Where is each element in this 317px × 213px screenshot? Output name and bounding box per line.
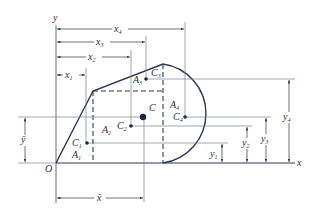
c4-label: C4 — [173, 111, 183, 123]
xbar-label: x̄ — [96, 192, 102, 203]
y1-label: y1 — [209, 148, 217, 160]
c1-point — [85, 141, 89, 145]
a3-label: A3 — [132, 74, 142, 86]
composite-area-diagram: y x O x4 x3 x2 x1 x̄ ȳ y1 y2 y3 y4 — [0, 0, 317, 213]
y-axis-label: y — [52, 12, 58, 23]
origin-label: O — [45, 163, 52, 174]
x-axis-label: x — [296, 157, 302, 168]
centroid-label: C — [149, 102, 156, 113]
c3-point — [144, 77, 148, 81]
c2-point — [129, 124, 133, 128]
c4-point — [183, 115, 187, 119]
centroid-point — [140, 114, 146, 120]
a1-label: A1 — [71, 149, 81, 161]
c1-label: C1 — [72, 137, 82, 149]
c3-label: C3 — [151, 67, 161, 79]
a4-label: A4 — [169, 99, 179, 111]
ybar-label: ȳ — [20, 134, 26, 145]
a2-label: A2 — [101, 124, 111, 136]
c2-label: C2 — [117, 120, 127, 132]
